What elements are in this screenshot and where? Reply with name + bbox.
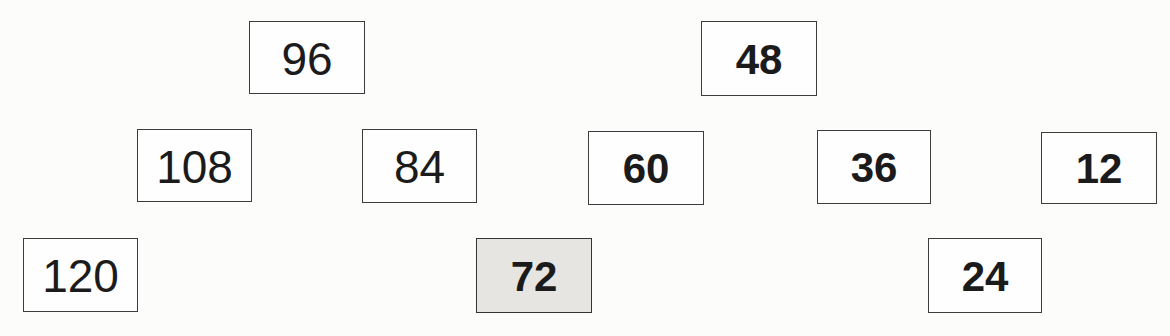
number-box-60: 60 (588, 131, 704, 205)
number-box-12: 12 (1041, 132, 1157, 204)
number-box-96: 96 (249, 21, 365, 94)
number-box-72: 72 (476, 238, 592, 313)
number-box-48: 48 (701, 21, 817, 96)
number-box-36: 36 (817, 130, 931, 204)
number-box-value: 96 (281, 34, 332, 82)
number-box-value: 120 (42, 251, 119, 299)
number-box-120: 120 (23, 238, 138, 312)
number-box-value: 36 (851, 145, 898, 189)
number-box-84: 84 (362, 129, 477, 203)
number-box-24: 24 (928, 238, 1042, 313)
number-box-value: 12 (1076, 146, 1123, 190)
number-box-value: 60 (623, 146, 670, 190)
number-box-value: 108 (156, 142, 233, 190)
number-box-value: 84 (394, 142, 445, 190)
number-box-value: 48 (736, 37, 783, 81)
number-box-value: 24 (962, 254, 1009, 298)
number-box-value: 72 (511, 254, 558, 298)
worksheet-canvas: 1201089684726048362412 (0, 0, 1170, 336)
number-box-108: 108 (137, 129, 252, 202)
